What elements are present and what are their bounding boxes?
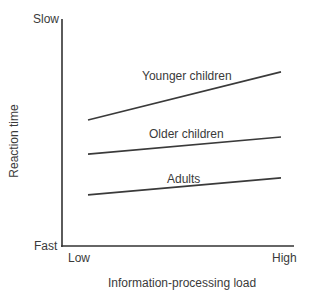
y-axis-label: Reaction time [8, 104, 20, 177]
series-label-older-children: Older children [149, 128, 224, 140]
series-label-adults: Adults [167, 173, 200, 185]
x-axis-label: Information-processing load [108, 277, 256, 289]
x-tick-high: High [272, 252, 297, 264]
y-tick-fast: Fast [34, 240, 57, 252]
y-tick-slow: Slow [33, 13, 59, 25]
series-label-younger-children: Younger children [142, 70, 232, 82]
x-tick-low: Low [68, 252, 90, 264]
